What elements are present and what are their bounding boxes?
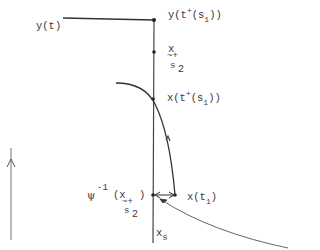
label-sub: 2 bbox=[178, 65, 184, 75]
label-sub: s bbox=[124, 207, 129, 216]
psi-symbol: ψ bbox=[87, 190, 95, 201]
incoming-trajectory-curve bbox=[160, 199, 288, 248]
label-y-t: y(t) bbox=[36, 21, 61, 32]
label-text: y(t bbox=[168, 9, 187, 21]
point-y-tplus-s1 bbox=[152, 18, 156, 22]
label-sub: s bbox=[170, 62, 175, 71]
label-sup: -1 bbox=[97, 184, 108, 193]
label-x-tplus-s1: x(t+(s1)) bbox=[167, 93, 221, 104]
label-x-s2: x ~+ s 2 bbox=[168, 44, 198, 74]
label-y-tplus-s1: y(t+(s1)) bbox=[168, 10, 222, 21]
label-text: )) bbox=[209, 9, 222, 21]
label-sup: + bbox=[186, 89, 191, 98]
label-text: (s bbox=[191, 92, 204, 104]
label-sub: 1 bbox=[203, 98, 208, 107]
label-psi-inverse: ψ -1 (x ~+ ) s 2 bbox=[87, 190, 157, 220]
tilde-mark: ~+ bbox=[167, 52, 178, 61]
label-text: x(t bbox=[167, 92, 186, 104]
label-text: )) bbox=[208, 92, 221, 104]
point-x-s2 bbox=[152, 50, 156, 54]
label-sub: 1 bbox=[204, 15, 209, 24]
label-sub: s bbox=[162, 233, 167, 243]
label-sub: 1 bbox=[206, 197, 211, 206]
label-sub: 2 bbox=[132, 210, 138, 220]
label-text: ) bbox=[139, 190, 145, 201]
y-trajectory-line bbox=[63, 18, 154, 20]
label-text: x(t bbox=[187, 191, 206, 203]
label-x-t1: x(t1) bbox=[187, 192, 217, 203]
label-text: (s bbox=[192, 9, 205, 21]
label-text: ) bbox=[211, 191, 217, 203]
label-sup: + bbox=[187, 6, 192, 15]
label-x-s: xs bbox=[156, 228, 168, 239]
